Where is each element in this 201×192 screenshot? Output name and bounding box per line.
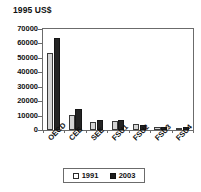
y-axis-tick-mark — [38, 58, 42, 59]
y-axis-tick-mark — [38, 43, 42, 44]
plot-area — [42, 28, 194, 131]
bar-group — [43, 29, 193, 130]
bar-chart-figure: 1995 US$ OECDCEESEEFSU1FSU2FSU3FSU4 1991… — [0, 0, 201, 192]
y-axis-tick-label: 50000 — [17, 54, 38, 62]
chart-legend: 1991 2003 — [63, 168, 145, 183]
y-axis-tick-label: 60000 — [17, 39, 38, 47]
y-axis-tick-label: 30000 — [17, 83, 38, 91]
legend-entry-2003: 2003 — [110, 171, 136, 180]
y-axis-tick-mark — [38, 72, 42, 73]
y-axis-tick-label: 10000 — [17, 112, 38, 120]
y-axis-tick-mark — [38, 130, 42, 131]
y-axis-tick-mark — [38, 87, 42, 88]
bars-layer — [43, 29, 193, 130]
legend-entry-1991: 1991 — [73, 171, 99, 180]
y-axis-tick-label: 40000 — [17, 68, 38, 76]
x-axis-category-labels: OECDCEESEEFSU1FSU2FSU3FSU4 — [0, 131, 201, 163]
filled-square-icon — [110, 173, 116, 179]
open-square-icon — [73, 173, 79, 179]
y-axis-tick-mark — [38, 116, 42, 117]
y-axis-tick-mark — [38, 29, 42, 30]
y-axis-tick-label: 70000 — [17, 25, 38, 33]
legend-label-2003: 2003 — [119, 171, 136, 180]
y-axis-tick-label: 20000 — [17, 97, 38, 105]
chart-axis-title: 1995 US$ — [13, 5, 52, 15]
legend-label-1991: 1991 — [82, 171, 99, 180]
y-axis-tick-mark — [38, 101, 42, 102]
